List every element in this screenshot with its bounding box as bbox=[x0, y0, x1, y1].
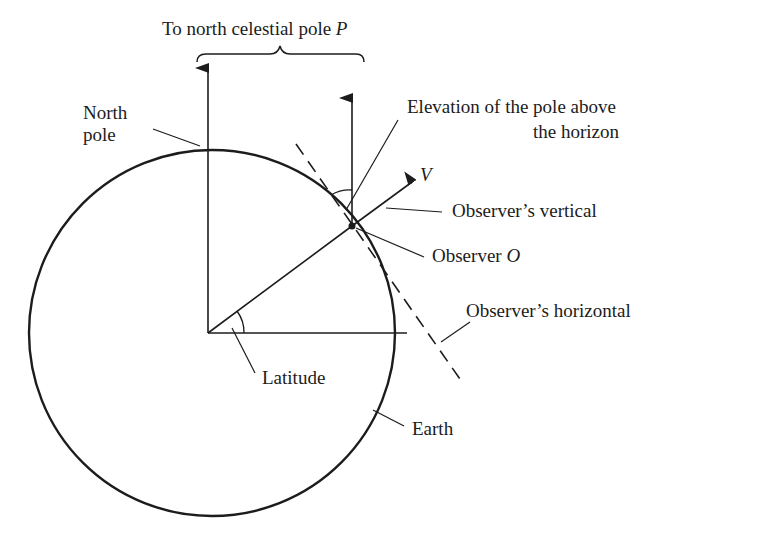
label-elevation: Elevation of the pole above bbox=[407, 96, 616, 118]
leader-observers-vertical bbox=[386, 208, 442, 212]
label-top-prefix: To north celestial pole bbox=[162, 18, 336, 39]
label-v: V bbox=[420, 164, 432, 186]
leader-latitude bbox=[232, 328, 255, 373]
leader-earth bbox=[373, 410, 404, 426]
elevation-angle-arc bbox=[331, 190, 352, 195]
label-observers-vertical: Observer’s vertical bbox=[452, 200, 597, 222]
leader-elevation bbox=[346, 120, 398, 210]
observer-point bbox=[349, 223, 356, 230]
label-elevation-line2: the horizon bbox=[533, 121, 619, 143]
label-observer: Observer O bbox=[432, 245, 520, 267]
label-observer-prefix: Observer bbox=[432, 245, 506, 266]
label-north-celestial-pole: To north celestial pole P bbox=[162, 18, 347, 40]
leader-observers-horizontal bbox=[441, 322, 470, 342]
observer-radius bbox=[208, 226, 352, 333]
label-north-pole-line2: pole bbox=[83, 124, 127, 146]
leader-north-pole bbox=[153, 129, 200, 146]
diagram-drawing bbox=[0, 0, 773, 543]
label-earth: Earth bbox=[412, 418, 453, 440]
label-north-pole: North pole bbox=[83, 102, 127, 146]
celestial-pole-diagram: To north celestial pole P North pole Ele… bbox=[0, 0, 773, 543]
label-observer-symbol: O bbox=[506, 245, 520, 266]
label-latitude: Latitude bbox=[262, 367, 325, 389]
label-top-symbol: P bbox=[336, 18, 348, 39]
observer-vertical-arrow bbox=[352, 182, 412, 226]
label-elevation-line1: Elevation of the pole above bbox=[407, 96, 616, 117]
leader-observer bbox=[356, 228, 424, 257]
label-observers-horizontal: Observer’s horizontal bbox=[466, 300, 631, 322]
label-north-pole-line1: North bbox=[83, 102, 127, 124]
latitude-angle-arc bbox=[237, 311, 244, 333]
brace bbox=[197, 46, 364, 62]
